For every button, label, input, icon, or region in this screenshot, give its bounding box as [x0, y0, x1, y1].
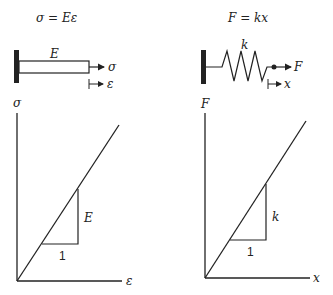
spring-constant-label: k [241, 38, 248, 52]
linear-response-line [205, 121, 306, 278]
displacement-label: x [284, 77, 291, 91]
x-axis-label-x: x [313, 271, 320, 285]
stress-label: σ [108, 60, 117, 74]
elastic-bar [19, 61, 89, 73]
slope-rise-label: k [272, 210, 279, 224]
spring-zigzag-icon [206, 51, 274, 81]
slope-triangle [42, 189, 78, 244]
force-displacement-graph: F x 1 k [200, 97, 320, 285]
strain-label: ε [107, 77, 113, 91]
slope-rise-label: E [83, 211, 93, 225]
bar-modulus-label: E [49, 47, 59, 61]
left-panel: σ = Eε E σ ε [14, 11, 117, 91]
linear-response-line [17, 125, 119, 281]
force-displacement-equation: F = kx [227, 11, 268, 25]
hookes-law-diagram: σ = Eε E σ ε σ ε 1 E F = kx k F x F [0, 0, 333, 295]
force-label: F [293, 60, 303, 74]
slope-run-label: 1 [247, 245, 254, 259]
x-axis-label-epsilon: ε [126, 274, 132, 288]
wall-left [14, 50, 19, 83]
wall-right [201, 50, 206, 84]
y-axis-label-F: F [200, 97, 210, 111]
stress-strain-equation: σ = Eε [36, 11, 77, 25]
y-axis-label-sigma: σ [13, 96, 22, 110]
slope-run-label: 1 [59, 249, 66, 263]
stress-strain-graph: σ ε 1 E [13, 96, 132, 288]
right-panel: F = kx k F x [201, 11, 303, 91]
